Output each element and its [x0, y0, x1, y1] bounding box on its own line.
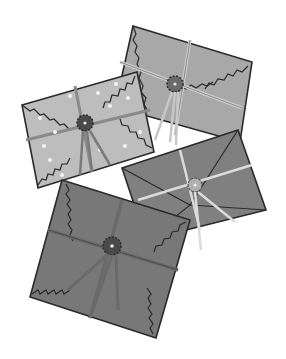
envelopes-illustration	[0, 0, 286, 359]
